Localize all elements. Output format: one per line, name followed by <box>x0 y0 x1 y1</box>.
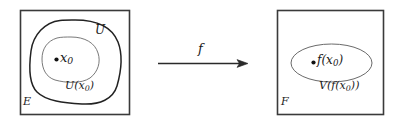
point-label-x0-subscript: 0 <box>67 55 73 66</box>
image-set-label-suffix: )) <box>351 79 360 92</box>
domain-space-boundary-E <box>21 11 130 115</box>
image-set-label-inner: f(x <box>331 79 346 92</box>
image-set-label-prefix: V( <box>319 79 331 92</box>
inner-set-label-U-x0: U(x0) <box>65 80 94 93</box>
image-set-label-V-f-x0: V(f(x0)) <box>319 80 359 93</box>
point-label-f-x0: f(x0) <box>317 54 343 68</box>
point-label-f-x0-prefix: f(x <box>317 53 333 67</box>
mapping-arrow-label-f: f <box>198 42 203 55</box>
point-f-x0-marker <box>311 60 315 64</box>
point-x0-marker <box>54 57 58 61</box>
point-label-x0: x0 <box>60 51 73 65</box>
mapping-diagram: E U x0 U(x0) f F f(x0) V(f(x0)) <box>0 0 403 125</box>
domain-space-label-E: E <box>23 96 31 107</box>
outer-set-label-U: U <box>95 24 105 36</box>
codomain-space-label-F: F <box>281 96 289 107</box>
inner-set-label-base: U <box>65 79 74 92</box>
point-label-f-x0-suffix: ) <box>338 53 343 67</box>
